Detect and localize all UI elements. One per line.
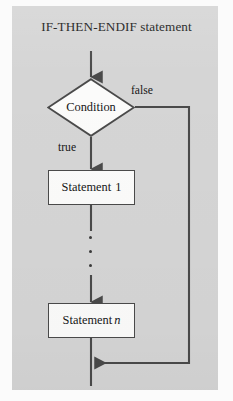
ellipsis-dot xyxy=(89,264,92,267)
figure-canvas: IF-THEN-ENDIF statement Condition S xyxy=(0,0,233,401)
vertical-ellipsis-icon xyxy=(88,234,95,272)
ellipsis-dot xyxy=(89,236,92,239)
decision-node-label: Condition xyxy=(47,78,135,137)
statement-first-label: Statement xyxy=(62,180,112,195)
edge-label-false: false xyxy=(131,84,153,97)
edge-label-true: true xyxy=(58,141,76,154)
process-node-statement-first: Statement 1 xyxy=(48,170,135,205)
decision-node-condition: Condition xyxy=(47,78,135,137)
statement-first-index: 1 xyxy=(111,180,121,195)
ellipsis-dot xyxy=(89,250,92,253)
statement-last-label: Statement xyxy=(63,313,113,328)
process-node-statement-last: Statement n xyxy=(48,303,135,338)
statement-last-index: n xyxy=(112,313,120,328)
